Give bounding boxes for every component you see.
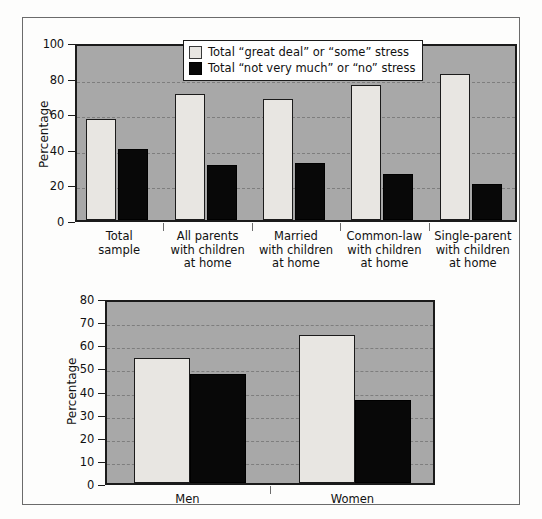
y-axis-tick bbox=[68, 44, 75, 45]
y-axis-tick-label: 40 bbox=[52, 386, 94, 400]
bar bbox=[351, 85, 381, 220]
y-axis-tick bbox=[68, 186, 75, 187]
bar bbox=[440, 74, 470, 220]
y-axis-tick-label: 30 bbox=[52, 409, 94, 423]
y-axis-line bbox=[75, 44, 77, 222]
y-axis-tick-label: 60 bbox=[22, 108, 64, 122]
x-axis-category-label: All parents with children at home bbox=[163, 230, 251, 271]
y-axis-tick bbox=[68, 222, 75, 223]
legend-label: Total “not very much” or “no” stress bbox=[208, 61, 415, 75]
y-axis-tick-label: 60 bbox=[52, 339, 94, 353]
y-axis-tick-label: 10 bbox=[52, 455, 94, 469]
y-axis-tick-label: 40 bbox=[22, 144, 64, 158]
y-axis-tick-label: 0 bbox=[52, 478, 94, 492]
bar bbox=[355, 400, 411, 483]
y-axis-tick bbox=[68, 115, 75, 116]
y-axis-tick-label: 0 bbox=[22, 215, 64, 229]
x-axis-category-label: Men bbox=[105, 493, 270, 507]
x-axis-category-label: Single-parent with children at home bbox=[429, 230, 517, 271]
x-axis-category-label: Married with children at home bbox=[252, 230, 340, 271]
gridline bbox=[107, 325, 433, 326]
bar bbox=[383, 174, 413, 220]
chart-gender: Percentage 01020304050607080 MenWomen bbox=[23, 290, 521, 506]
y-axis-tick bbox=[98, 369, 105, 370]
x-axis-category-label: Total sample bbox=[75, 230, 163, 257]
plot-area bbox=[105, 300, 435, 485]
legend-item: Total “great deal” or “some” stress bbox=[189, 44, 415, 60]
legend: Total “great deal” or “some” stress Tota… bbox=[183, 40, 423, 81]
bar bbox=[472, 184, 502, 220]
y-axis-tick-label: 80 bbox=[52, 293, 94, 307]
y-axis-tick bbox=[98, 346, 105, 347]
bar bbox=[190, 374, 246, 483]
bar bbox=[134, 358, 190, 483]
bar bbox=[175, 94, 205, 220]
y-axis-tick bbox=[98, 323, 105, 324]
y-axis-tick-label: 20 bbox=[52, 432, 94, 446]
y-axis-tick-label: 50 bbox=[52, 362, 94, 376]
bar bbox=[207, 165, 237, 220]
bar bbox=[263, 99, 293, 220]
y-axis-line bbox=[105, 300, 107, 485]
bar bbox=[86, 119, 116, 220]
y-axis-tick bbox=[98, 416, 105, 417]
y-axis-tick bbox=[98, 485, 105, 486]
y-axis-tick bbox=[68, 151, 75, 152]
y-axis-tick-label: 70 bbox=[52, 316, 94, 330]
y-axis-tick bbox=[68, 80, 75, 81]
legend-item: Total “not very much” or “no” stress bbox=[189, 60, 415, 76]
bar bbox=[299, 335, 355, 483]
bar bbox=[118, 149, 148, 220]
y-axis-tick bbox=[98, 393, 105, 394]
y-axis-tick-label: 80 bbox=[22, 73, 64, 87]
x-axis-category-label: Common-law with children at home bbox=[340, 230, 428, 271]
y-axis-tick bbox=[98, 439, 105, 440]
x-axis-category-label: Women bbox=[270, 493, 435, 507]
gridline bbox=[107, 348, 433, 349]
y-axis-tick bbox=[98, 462, 105, 463]
figure-frame: Percentage 020406080100 Total sampleAll … bbox=[22, 17, 520, 505]
legend-label: Total “great deal” or “some” stress bbox=[208, 45, 409, 59]
legend-swatch-light-icon bbox=[189, 46, 202, 59]
y-axis-tick-label: 20 bbox=[22, 179, 64, 193]
legend-swatch-dark-icon bbox=[189, 62, 202, 75]
bar bbox=[295, 163, 325, 220]
y-axis-tick-label: 100 bbox=[22, 37, 64, 51]
y-axis-tick bbox=[98, 300, 105, 301]
